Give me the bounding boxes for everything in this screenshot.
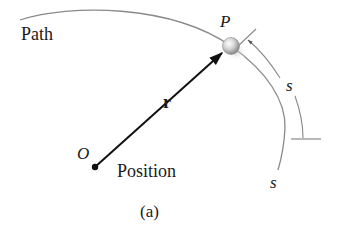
particle-p (223, 38, 240, 55)
vector-r-label: r (163, 93, 171, 111)
figure-caption: (a) (140, 203, 159, 220)
path-label: Path (21, 25, 53, 43)
origin-point (92, 164, 98, 170)
path-curve (20, 10, 285, 170)
arc-length-dimension-lower (295, 96, 303, 138)
position-subtitle: Position (117, 162, 176, 180)
arc-length-label-outer: s (286, 77, 293, 94)
arc-length-dimension-upper (248, 40, 280, 78)
origin-label: O (77, 145, 89, 162)
particle-label: P (220, 13, 230, 30)
curvilinear-motion-diagram: Path P O r s s Position (a) (0, 0, 346, 239)
position-vector-r (95, 53, 222, 167)
arc-length-label-path: s (270, 174, 277, 191)
